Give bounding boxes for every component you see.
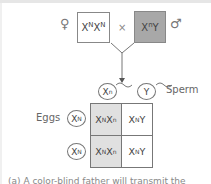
male-symbol: ♂ [170, 16, 182, 31]
punnett-cell-r2c1: XNXn [90, 135, 122, 168]
punnett-cell-r1c1: XNXn [90, 103, 122, 136]
sperm-label: Sperm [166, 84, 199, 95]
egg-circle-2: XN [67, 143, 86, 160]
punnett-cell-r1c2: XNY [121, 103, 153, 136]
figure-caption: (a) A color-blind father will transmit t… [8, 176, 186, 184]
male-allele-2: Y [153, 22, 159, 33]
female-genotype-box: XNXN [77, 12, 110, 43]
egg-circle-1: XN [67, 110, 86, 127]
female-symbol: ♀ [60, 16, 70, 31]
female-allele-1: XN [81, 21, 93, 33]
female-allele-2: XN [94, 21, 106, 33]
sperm-y-circle: Y [137, 83, 156, 100]
sperm-x-circle: Xn [98, 83, 117, 100]
male-genotype-box: XnY [134, 11, 166, 43]
punnett-cell-r2c2: XNY [121, 135, 153, 168]
male-allele-1: Xn [141, 21, 152, 33]
cross-symbol: × [118, 22, 126, 33]
eggs-label: Eggs [36, 112, 60, 123]
